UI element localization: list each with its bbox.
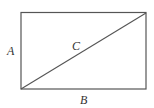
diagonal-line bbox=[21, 13, 146, 89]
label-c: C bbox=[72, 39, 81, 53]
label-b: B bbox=[80, 93, 88, 107]
label-a: A bbox=[6, 44, 15, 58]
rectangle-diagram: A C B bbox=[0, 0, 154, 108]
